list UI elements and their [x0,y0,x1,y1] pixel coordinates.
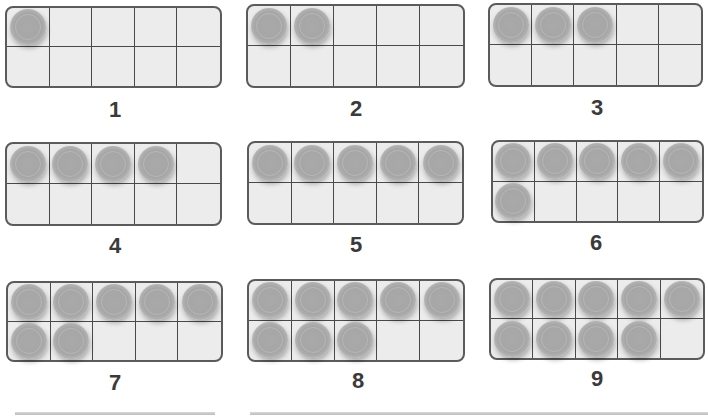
frame-cell [93,283,136,322]
counter-icon [252,282,288,318]
counter-icon [252,145,288,181]
counter-icon [295,282,331,318]
frame-cell [617,45,659,85]
counter-icon [537,143,573,179]
counter-icon [536,321,572,357]
frame-cell [335,321,378,361]
frame-cell [535,142,577,182]
ten-frame-6 [491,140,704,223]
counter-icon [294,145,330,181]
counter-icon [10,146,46,182]
counter-icon [53,323,89,359]
frame-cell [177,184,220,224]
frame-cell [135,8,178,47]
frame-cell [50,8,93,47]
counter-icon [495,143,531,179]
frame-cell [334,46,377,86]
frame-cell [377,281,420,321]
frame-cell [8,322,51,361]
frame-cell [92,47,135,86]
frame-cell [661,319,703,358]
frame-cell [493,142,535,182]
counter-icon [139,284,175,320]
ten-frame-8 [247,279,465,362]
frame-cell [660,182,702,222]
frame-cell [249,321,292,361]
frame-cell [136,283,179,322]
counter-icon [337,145,373,181]
counter-icon [95,146,131,182]
frame-cell [334,6,377,46]
frame-cell [490,45,532,85]
frame-cell [493,182,535,222]
counter-icon [11,323,47,359]
frame-cell [92,144,135,184]
frame-cell [419,183,462,223]
counter-icon [52,146,88,182]
frame-cell [50,184,93,224]
frame-cell [7,184,50,224]
frame-cell [618,280,660,319]
frame-cell [177,144,220,184]
frame-cell [136,322,179,361]
ten-frame-4 [5,142,222,226]
frame-cell [135,47,178,86]
frame-cell [292,281,335,321]
frame-cell [334,183,377,223]
frame-cell [177,47,220,86]
ten-frame-7 [6,281,223,362]
counter-icon [494,321,530,357]
counter-icon [494,281,530,317]
counter-icon [578,281,614,317]
frame-cell [574,5,616,45]
frame-number-label: 4 [95,233,135,259]
frame-cell [249,281,292,321]
divider-line [15,412,215,415]
counter-icon [664,281,700,317]
frame-number-label: 6 [576,230,616,256]
counter-icon [621,143,657,179]
frame-cell [491,280,533,319]
counter-icon [424,282,460,318]
counter-icon [53,284,89,320]
frame-number-label: 3 [577,95,617,121]
counter-icon [621,321,657,357]
ten-frame-2 [246,4,465,88]
frame-cell [248,6,291,46]
counter-icon [536,281,572,317]
frame-cell [491,319,533,358]
frame-cell [249,143,292,183]
frame-cell [7,47,50,86]
frame-cell [7,144,50,184]
frame-cell [618,319,660,358]
frame-number-label: 5 [336,232,376,258]
counter-icon [294,8,330,44]
frame-number-label: 2 [336,96,376,122]
counter-icon [138,146,174,182]
counter-icon [380,282,416,318]
frame-cell [335,281,378,321]
frame-cell [660,142,702,182]
frame-cell [249,183,292,223]
frame-cell [292,183,335,223]
frame-cell [248,46,291,86]
frame-cell [51,283,94,322]
frame-cell [93,322,136,361]
frame-cell [377,46,420,86]
frame-number-label: 1 [95,97,135,123]
frame-cell [420,281,463,321]
frame-cell [533,319,575,358]
frame-cell [532,45,574,85]
frame-cell [490,5,532,45]
frame-cell [334,143,377,183]
frame-cell [574,45,616,85]
frame-cell [377,321,420,361]
frame-cell [617,5,659,45]
frame-cell [659,5,701,45]
frame-cell [51,322,94,361]
frame-cell [92,8,135,47]
frame-cell [8,283,51,322]
counter-icon [10,9,46,45]
frame-number-label: 7 [95,370,135,396]
counter-icon [337,282,373,318]
